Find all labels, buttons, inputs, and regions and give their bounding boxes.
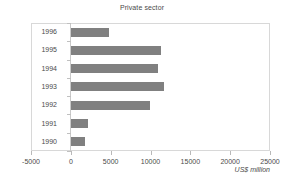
bar-row xyxy=(31,41,270,59)
bar-row xyxy=(31,78,270,96)
bar-1990 xyxy=(71,137,85,146)
x-axis-tick xyxy=(71,151,72,155)
y-axis-label-1994: 1994 xyxy=(0,65,57,72)
bars-layer: 1996199519941993199219911990-50000500010… xyxy=(0,0,284,176)
bar-1996 xyxy=(71,28,109,37)
x-axis-tick xyxy=(190,151,191,155)
bar-row xyxy=(31,114,270,132)
x-axis-tick xyxy=(31,151,32,155)
y-axis-label-1991: 1991 xyxy=(0,120,57,127)
bar-1992 xyxy=(71,101,150,110)
y-axis-label-1992: 1992 xyxy=(0,101,57,108)
bar-1991 xyxy=(71,119,88,128)
y-axis-tick xyxy=(67,23,71,24)
x-axis-tick xyxy=(270,151,271,155)
bar-row xyxy=(31,96,270,114)
bar-row xyxy=(31,133,270,151)
x-axis-tick xyxy=(151,151,152,155)
y-axis-label-1996: 1996 xyxy=(0,28,57,35)
y-axis-label-1990: 1990 xyxy=(0,138,57,145)
x-axis-tick-label: 25000 xyxy=(245,158,284,165)
x-axis-tick xyxy=(111,151,112,155)
chart-container: Private sector 1996199519941993199219911… xyxy=(0,0,284,176)
y-axis-label-1995: 1995 xyxy=(0,46,57,53)
y-axis-label-1993: 1993 xyxy=(0,83,57,90)
bar-row xyxy=(31,60,270,78)
bar-row xyxy=(31,23,270,41)
x-axis-caption: US$ million xyxy=(235,166,270,173)
bar-1993 xyxy=(71,82,165,91)
x-axis-tick xyxy=(230,151,231,155)
bar-1995 xyxy=(71,46,161,55)
bar-1994 xyxy=(71,64,158,73)
